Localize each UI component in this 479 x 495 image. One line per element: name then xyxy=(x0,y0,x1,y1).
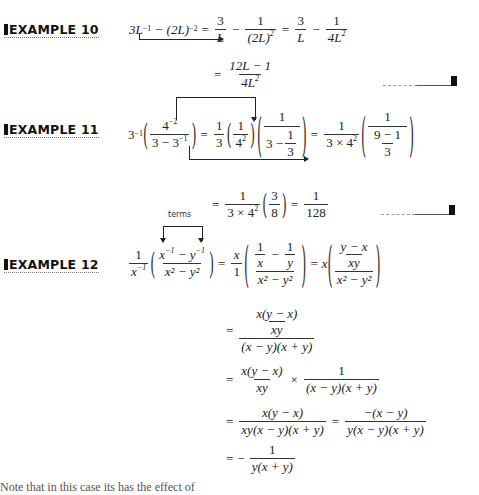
fraction: 13 × 42 xyxy=(324,119,359,149)
fraction: 12L − 14L2 xyxy=(227,59,273,89)
example-11-line-2: = 113 × 42 ( 38 ) = 1128 xyxy=(208,186,330,222)
example-12-line-2: = x(y − x)xy(x − y)(x + y) xyxy=(222,300,316,360)
fraction: 13 xyxy=(214,119,225,149)
label-marker-icon xyxy=(4,24,8,35)
fraction: 1x−1 xyxy=(129,248,148,278)
example-12-line-4: = x(y − x)xy(x − y)(x + y) = −(x − y)y(x… xyxy=(222,403,428,439)
fraction: 4−23 − 3−1 xyxy=(150,119,189,149)
annotation-arrow xyxy=(189,146,306,160)
label-marker-icon xyxy=(4,124,8,135)
fraction: 1128 xyxy=(304,189,328,219)
fraction: −(x − y)y(x − y)(x + y) xyxy=(345,406,426,436)
fraction: y − xxyx² − y² xyxy=(335,240,374,287)
fraction: 113 × 42 xyxy=(225,189,260,219)
example-11-label: EXAMPLE 11 xyxy=(4,123,99,138)
fraction: 14L2 xyxy=(326,14,348,44)
fraction: 1(x − y)(x + y) xyxy=(304,364,379,394)
cut-off-body-text: Note that in this case its has the effec… xyxy=(0,480,195,495)
fraction: x−1−y−1x² − y² xyxy=(157,248,207,278)
example-10-line-1: 3L−1 − (2L)−2 = 3L − 1(2L)2 = 3L − 14L2 xyxy=(129,12,349,46)
example-10-line-2: = 12L − 14L2 xyxy=(210,57,275,91)
fraction: x(y − x)xy(x − y)(x + y) xyxy=(239,406,325,436)
example-12-line-3: = x(y − x)xy × 1(x − y)(x + y) xyxy=(222,361,381,397)
example-12-label: EXAMPLE 12 xyxy=(4,258,99,273)
arrow-head-icon xyxy=(219,36,224,42)
fraction: x1 xyxy=(231,248,242,278)
fraction: 38 xyxy=(269,189,280,219)
end-of-example-marker xyxy=(383,77,459,87)
example-10-label: EXAMPLE 10 xyxy=(4,23,99,38)
arrow-head-icon xyxy=(251,117,257,122)
annotation-arrow xyxy=(139,33,221,40)
fraction: x(y − x)xy(x − y)(x + y) xyxy=(239,307,314,354)
fraction: 3L xyxy=(295,14,306,44)
fraction: 1y(x + y) xyxy=(250,443,295,473)
arrow-head-icon xyxy=(304,156,309,162)
fraction: 1(2L)2 xyxy=(245,14,275,44)
fraction: 142 xyxy=(233,119,248,149)
example-12-line-5: = − 1y(x + y) xyxy=(222,440,297,476)
fraction: 1x−1yx² − y² xyxy=(251,240,299,287)
annotation-arrow xyxy=(176,97,256,120)
terms-annotation: terms xyxy=(168,210,191,219)
fraction: x(y − x)xy xyxy=(239,364,284,394)
fraction: 19 − 13 xyxy=(368,110,407,159)
end-of-example-marker xyxy=(381,206,457,216)
label-marker-icon xyxy=(4,259,8,270)
example-12-line-1: 1x−1 ( x−1−y−1x² − y² ) = x1 ( 1x−1yx² −… xyxy=(127,234,381,292)
